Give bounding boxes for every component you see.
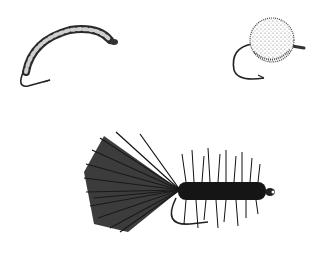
nymph-fly-icon: Curved nymph fly on hook bbox=[10, 20, 120, 95]
illustration-canvas: Curved nymph fly on hook Egg pattern fly… bbox=[0, 0, 325, 253]
woolly-bugger-icon: Woolly bugger streamer fly with marabou … bbox=[80, 128, 280, 238]
egg-fly-icon: Egg pattern fly on hook bbox=[224, 8, 314, 88]
